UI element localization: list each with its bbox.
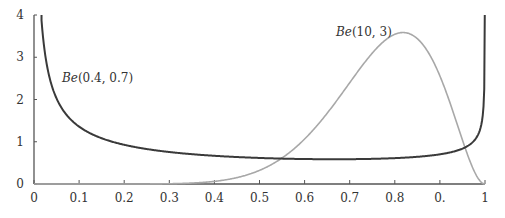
x-tick-label: 0.4 <box>205 191 224 205</box>
beta-distribution-chart: 01234 00.10.20.30.40.50.60.70.80.1 Be(0.… <box>0 0 505 218</box>
x-tick-label: 0.8 <box>385 191 404 205</box>
y-tick-label: 2 <box>16 93 24 107</box>
x-tick-label: 0. <box>434 191 445 205</box>
y-tick-label: 3 <box>16 50 24 64</box>
x-tick-label: 0 <box>30 191 38 205</box>
x-tick-label: 0.6 <box>295 191 314 205</box>
series-be-0.4-0.7-label: Be(0.4, 0.7) <box>61 71 133 85</box>
y-tick-label: 4 <box>16 8 24 22</box>
x-tick-label: 0.1 <box>70 191 89 205</box>
x-tick-label: 0.5 <box>250 191 269 205</box>
x-tick-label: 1 <box>481 191 489 205</box>
series-be-10-3-curve <box>34 33 485 184</box>
x-tick-label: 0.2 <box>115 191 134 205</box>
x-tick-label: 0.3 <box>160 191 179 205</box>
series-be-0.4-0.7-curve <box>42 15 485 159</box>
y-tick-label: 0 <box>16 177 24 191</box>
x-tick-label: 0.7 <box>340 191 359 205</box>
y-tick-label: 1 <box>16 135 24 149</box>
series-be-10-3-label: Be(10, 3) <box>335 25 392 39</box>
y-axis: 01234 <box>16 8 37 191</box>
